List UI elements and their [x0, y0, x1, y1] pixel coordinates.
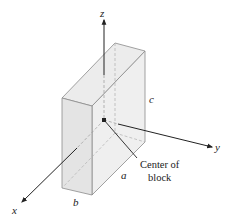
z-axis-label: z	[99, 7, 105, 19]
block-front-face	[62, 98, 92, 195]
dimension-b-label: b	[73, 196, 79, 208]
block-axes-diagram: z y x c a b Center of block	[0, 0, 230, 221]
center-annotation-line1: Center of	[140, 159, 180, 170]
x-axis-label: x	[11, 204, 17, 216]
dimension-c-label: c	[149, 93, 154, 105]
y-axis-label: y	[214, 141, 220, 153]
dimension-a-label: a	[121, 169, 127, 181]
center-annotation-line2: block	[148, 172, 172, 183]
